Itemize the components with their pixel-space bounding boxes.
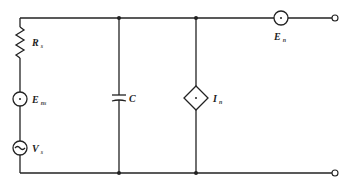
label-vs: Vs <box>32 143 44 155</box>
resistor-rs <box>16 27 24 58</box>
ac-tilde-icon <box>15 147 25 150</box>
dot-icon <box>280 17 282 19</box>
circuit-diagram: Rs Ens Vs C In En <box>0 0 349 186</box>
dot-icon <box>19 98 21 100</box>
label-in: In <box>212 93 223 105</box>
label-en: En <box>273 31 287 43</box>
dot-icon <box>195 97 197 99</box>
label-rs: Rs <box>31 37 44 49</box>
label-c: C <box>129 93 136 104</box>
label-ens: Ens <box>31 94 47 106</box>
output-terminal-top <box>332 15 338 21</box>
output-terminal-bottom <box>332 170 338 176</box>
